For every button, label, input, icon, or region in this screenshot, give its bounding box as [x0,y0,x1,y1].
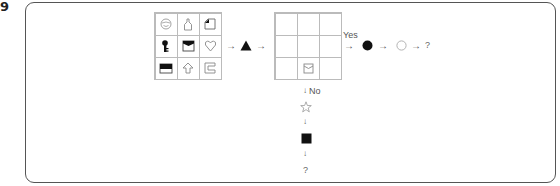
input-cell-5 [177,35,200,58]
no-result-question: ? [303,165,308,175]
yes-label: Yes [343,30,358,40]
yes-arrow: → [344,41,354,51]
black-square-icon [301,133,312,144]
arrow-right-1: → [226,41,236,51]
input-cell-2 [177,13,200,36]
input-cell-8 [177,57,200,80]
input-cell-7 [155,57,178,80]
black-circle-icon [362,40,373,51]
input-cell-6 [199,35,222,58]
up-arrow-outline-icon [182,62,194,74]
heart-outline-icon [204,40,217,52]
output-cell-6 [319,35,342,58]
key-icon [161,40,171,53]
envelope-outline-icon [303,63,314,74]
down-arrow-2: ↓ [303,118,307,126]
output-cell-7 [275,57,298,80]
question-number: 9 [0,0,9,14]
arrow-right-2: → [256,41,266,51]
output-cell-1 [275,13,298,36]
arrow-right-4: → [411,41,421,51]
input-cell-3 [199,13,222,36]
output-cell-5 [297,35,320,58]
white-circle-icon [396,40,407,51]
down-arrow-3: ↓ [303,150,307,158]
input-grid [154,12,222,80]
output-cell-4 [275,35,298,58]
output-cell-8 [297,57,320,80]
white-star-icon [300,101,312,113]
smiley-circle-icon [160,18,172,30]
output-grid [274,12,342,80]
black-triangle-icon [240,40,252,51]
output-cell-2 [297,13,320,36]
envelope-box-filled-top-icon [182,40,195,52]
output-cell-9 [319,57,342,80]
input-cell-4 [155,35,178,58]
bottle-icon [183,18,193,31]
input-cell-9 [199,57,222,80]
no-arrow: ↓ [303,87,307,95]
yes-result-question: ? [425,40,430,50]
arrow-right-3: → [378,41,388,51]
no-label: No [309,86,321,96]
output-cell-3 [319,13,342,36]
bracket-c-icon [204,62,216,74]
input-cell-1 [155,13,178,36]
half-filled-rectangle-icon [159,63,173,74]
folded-corner-square-icon [204,18,216,30]
